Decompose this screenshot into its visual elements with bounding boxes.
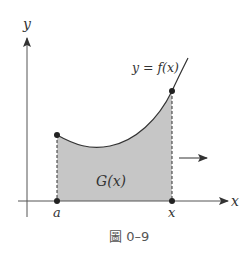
- point-x-label: x: [168, 205, 176, 220]
- x-axis-label: x: [231, 193, 239, 209]
- figure-caption: 圖 0–9: [109, 229, 149, 244]
- point-a-top: [54, 132, 60, 138]
- area-under-curve-diagram: y x y = f(x) G(x) a x 圖 0–9: [0, 0, 248, 255]
- y-axis-label: y: [22, 16, 32, 32]
- point-a-axis: [54, 198, 60, 204]
- point-a-label: a: [53, 205, 61, 220]
- area-label: G(x): [96, 173, 126, 189]
- point-x-top: [169, 88, 175, 94]
- curve-label: y = f(x): [131, 60, 179, 75]
- figure-canvas: y x y = f(x) G(x) a x 圖 0–9: [0, 0, 248, 255]
- point-x-axis: [169, 198, 175, 204]
